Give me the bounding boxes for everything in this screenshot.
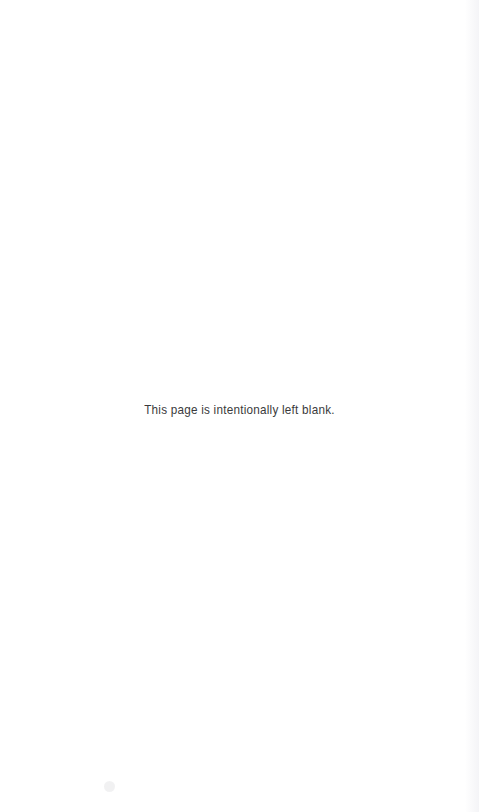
page-content-area: This page is intentionally left blank.: [0, 0, 479, 812]
blank-page-notice: This page is intentionally left blank.: [144, 402, 335, 418]
document-page: This page is intentionally left blank.: [0, 0, 479, 812]
